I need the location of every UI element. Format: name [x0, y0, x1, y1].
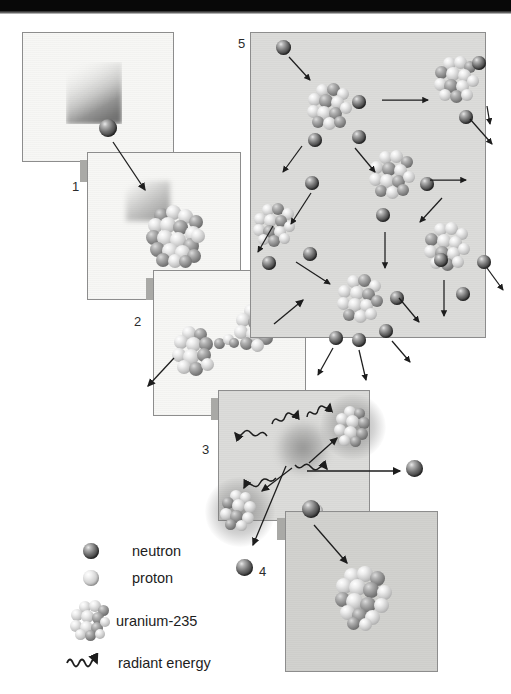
legend-label-neutron: neutron [132, 543, 181, 559]
chain-neutron-17 [352, 333, 366, 347]
legend-item-radiant-energy: radiant energy [66, 655, 211, 671]
chain-neutron-14 [434, 253, 448, 267]
panel-2-number: 2 [134, 314, 141, 329]
neutron-icon [83, 543, 99, 559]
chain-nucleus-d [253, 203, 297, 249]
chain-neutron-10 [303, 247, 317, 261]
chain-nucleus-f [337, 274, 385, 324]
radiant-energy-icon [66, 656, 110, 670]
chain-neutron-3 [472, 56, 486, 70]
chain-neutron-15 [390, 291, 404, 305]
legend-item-proton: proton [83, 570, 173, 586]
chain-neutron-1 [276, 40, 291, 55]
panel-1 [22, 32, 174, 162]
legend-item-uranium: uranium-235 [70, 600, 197, 642]
chain-nucleus-c [369, 150, 417, 200]
panel-1-number: 1 [72, 179, 79, 194]
panel-3-number: 3 [202, 442, 209, 457]
chain-neutron-18 [379, 324, 393, 338]
fission-fragment-left [219, 490, 261, 532]
chain-neutron-4 [459, 110, 473, 124]
chain-arrow-11 [487, 268, 503, 290]
figure-canvas: 1 2 [0, 0, 511, 694]
chain-arrow-17 [392, 341, 410, 362]
released-neutron-right [406, 460, 423, 477]
chain-neutron-16 [329, 331, 343, 345]
chain-nucleus-a [307, 83, 353, 131]
fission-fragment-right [333, 406, 375, 448]
released-neutron-bottom [236, 559, 253, 576]
proton-icon [83, 570, 99, 586]
target-nucleus-panel-6 [335, 566, 395, 628]
chain-neutron-13 [456, 287, 470, 301]
incoming-neutron-panel-6 [302, 500, 320, 518]
legend-label-radiant-energy: radiant energy [118, 655, 211, 671]
chain-nucleus-e [424, 222, 472, 272]
legend-item-neutron: neutron [83, 543, 181, 559]
chain-arrow-15 [318, 348, 333, 375]
chain-neutron-11 [262, 256, 276, 270]
scan-edge-bar [0, 0, 511, 13]
chain-neutron-8 [420, 177, 434, 191]
panel-4-number: 4 [259, 564, 266, 579]
chain-arrow-16 [359, 350, 366, 380]
chain-neutron-5 [352, 130, 366, 144]
chain-neutron-9 [376, 208, 390, 222]
uranium-235-icon [70, 600, 110, 642]
chain-neutron-12 [477, 255, 491, 269]
legend-label-proton: proton [132, 570, 173, 586]
chain-neutron-7 [305, 176, 319, 190]
neutron-particle [99, 119, 117, 137]
chain-neutron-2 [352, 95, 366, 109]
chain-neutron-6 [308, 133, 322, 147]
panel-5-number: 5 [238, 36, 245, 51]
chain-arrow-18 [487, 106, 490, 124]
panel-6-shadow [277, 518, 285, 540]
uranium-235-nucleus [146, 205, 206, 267]
legend-label-uranium: uranium-235 [116, 613, 197, 629]
